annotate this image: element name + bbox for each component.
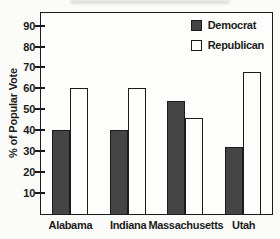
scan-artifact: [70, 0, 230, 4]
bar-republican-massachusetts: [185, 118, 203, 214]
y-axis-tick-mark: [35, 46, 45, 48]
legend-item-democrat: Democrat: [191, 20, 264, 31]
bar-democrat-massachusetts: [167, 101, 185, 214]
y-axis-tick-label: 70: [6, 60, 35, 74]
bar-chart: % of Popular Vote Democrat Republican 10…: [0, 0, 280, 239]
bar-republican-utah: [243, 72, 261, 214]
y-axis-tick-mark: [35, 129, 45, 131]
bar-democrat-utah: [225, 147, 243, 214]
legend-label-democrat: Democrat: [208, 20, 256, 31]
x-axis-label-utah: Utah: [199, 219, 280, 232]
y-axis-tick-label: 60: [6, 81, 35, 95]
republican-swatch-icon: [191, 40, 202, 51]
legend-item-republican: Republican: [191, 40, 264, 51]
y-axis-tick-label: 80: [6, 40, 35, 54]
bar-democrat-indiana: [110, 130, 128, 214]
plot-area: Democrat Republican 102030405060708090: [40, 12, 273, 215]
y-axis-tick-mark: [35, 25, 45, 27]
democrat-swatch-icon: [191, 20, 202, 31]
y-axis-tick-mark: [35, 108, 45, 110]
y-axis-tick-label: 30: [6, 144, 35, 158]
y-axis-tick-mark: [35, 66, 45, 68]
y-axis-tick-label: 20: [6, 165, 35, 179]
y-axis-tick-label: 50: [6, 102, 35, 116]
y-axis-tick-mark: [35, 87, 45, 89]
legend: Democrat Republican: [191, 20, 264, 51]
y-axis-tick-label: 90: [6, 19, 35, 33]
y-axis-tick-label: 40: [6, 123, 35, 137]
bar-democrat-alabama: [52, 130, 70, 214]
legend-label-republican: Republican: [208, 40, 264, 51]
y-axis-tick-label: 10: [6, 186, 35, 200]
y-axis-tick-mark: [35, 150, 45, 152]
y-axis-tick-mark: [35, 171, 45, 173]
y-axis-tick-mark: [35, 192, 45, 194]
bar-republican-indiana: [128, 88, 146, 214]
bar-republican-alabama: [70, 88, 88, 214]
